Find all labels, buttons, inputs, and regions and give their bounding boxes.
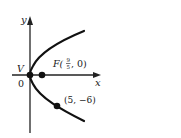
focus-label: F( 9 5 , 0) [52,57,87,70]
y-axis-label: y [20,14,27,25]
vertex-label: V [17,63,25,74]
focus-frac-num: 9 [67,57,71,63]
svg-text:, 0): , 0) [71,58,87,69]
origin-label: 0 [18,78,24,89]
focus-frac-den: 5 [67,64,71,70]
point-label: (5, −6) [64,95,96,105]
svg-text:F(: F( [52,58,64,69]
focus-point [39,72,46,79]
x-axis-label: x [95,77,101,88]
parabola-diagram: y x 0 V F( 9 5 , 0) (5, −6) [0,0,181,138]
vertex-point [27,72,34,79]
point-5-neg6 [54,103,61,110]
x-axis [12,72,101,78]
